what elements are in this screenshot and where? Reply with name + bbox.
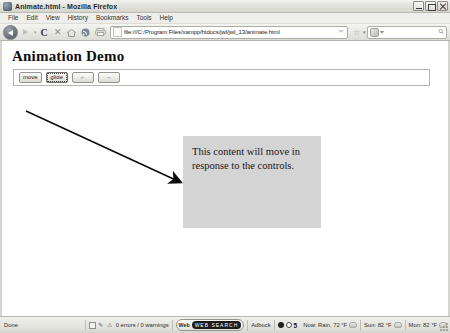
- search-bar[interactable]: ⚲: [367, 26, 447, 39]
- controls-panel: move glide ← →: [13, 69, 430, 86]
- glide-button[interactable]: glide: [46, 72, 68, 83]
- page-title: Animation Demo: [12, 48, 124, 65]
- browser-window: Animate.html - Mozilla Firefox File Edit…: [0, 0, 450, 333]
- menu-file[interactable]: File: [4, 13, 22, 23]
- menu-help[interactable]: Help: [156, 13, 177, 23]
- close-button[interactable]: [437, 1, 448, 11]
- back-icon[interactable]: [3, 25, 18, 40]
- adblock-status[interactable]: Adbock: [248, 318, 273, 333]
- search-engine-icon[interactable]: [370, 28, 379, 37]
- firefox-icon: [3, 2, 12, 11]
- left-arrow-button[interactable]: ←: [72, 72, 94, 83]
- web-pill[interactable]: Web WEB SEARCH: [176, 319, 245, 331]
- warning-icon[interactable]: ⚠: [107, 322, 114, 329]
- console-icon[interactable]: [89, 322, 96, 329]
- weather-sunday[interactable]: Sun: 82 °F: [361, 318, 404, 333]
- weather-sun-text: Sun: 82 °F: [364, 322, 391, 328]
- cloud-icon-sun: [394, 322, 402, 328]
- forward-icon: [19, 26, 32, 39]
- window-frame-left: [0, 41, 2, 316]
- maximize-button[interactable]: [425, 1, 436, 11]
- page-favicon: [113, 27, 122, 37]
- counter-value: 5: [294, 322, 298, 329]
- home-icon[interactable]: [66, 26, 77, 39]
- title-bar: Animate.html - Mozilla Firefox: [0, 0, 450, 13]
- right-arrow-button[interactable]: →: [98, 72, 120, 83]
- address-bar[interactable]: file:///C:/Program Files/xampp/htdocs/jw…: [110, 26, 348, 39]
- status-tools[interactable]: ✎ ⚠ 0 errors / 0 warnings: [86, 318, 172, 333]
- menu-bar: File Edit View History Bookmarks Tools H…: [0, 13, 450, 24]
- address-dropdown-icon[interactable]: [338, 30, 344, 33]
- status-bar: Done ✎ ⚠ 0 errors / 0 warnings Web WEB S…: [0, 316, 450, 333]
- status-text: Done: [0, 318, 85, 333]
- bookmark-star-icon[interactable]: ☆: [351, 26, 361, 39]
- notification-counter[interactable]: 5: [275, 318, 301, 333]
- menu-edit[interactable]: Edit: [22, 13, 41, 23]
- resize-grip[interactable]: [439, 322, 449, 332]
- cloud-icon-now: [349, 322, 357, 328]
- print-icon[interactable]: [94, 26, 107, 39]
- window-title: Animate.html - Mozilla Firefox: [15, 3, 117, 10]
- animated-content-box[interactable]: This content will move in response to th…: [183, 136, 321, 228]
- web-search-widget[interactable]: Web WEB SEARCH: [173, 318, 248, 333]
- search-engine-dropdown-icon[interactable]: [380, 31, 384, 34]
- animated-content-text: This content will move in response to th…: [183, 136, 321, 172]
- feed-icon[interactable]: [80, 26, 91, 39]
- search-icon[interactable]: ⚲: [437, 27, 446, 36]
- stop-icon[interactable]: ✕: [52, 26, 63, 39]
- menu-tools[interactable]: Tools: [132, 13, 155, 23]
- weather-mon-text: Mon: 82 °F: [409, 322, 437, 328]
- web-badge: WEB SEARCH: [192, 321, 242, 329]
- open-dot-icon: [286, 322, 292, 328]
- error-summary: 0 errors / 0 warnings: [116, 322, 169, 328]
- web-label: Web: [179, 322, 190, 328]
- filled-dot-icon: [278, 322, 284, 328]
- address-bar-value: file:///C:/Program Files/xampp/htdocs/jw…: [124, 29, 280, 35]
- reload-icon[interactable]: C: [38, 26, 50, 39]
- move-button[interactable]: move: [19, 72, 42, 83]
- menu-bookmarks[interactable]: Bookmarks: [92, 13, 133, 23]
- menu-view[interactable]: View: [42, 13, 64, 23]
- navigation-toolbar: ▾ C ✕ file:///C:/Program Files/xampp/htd…: [0, 24, 450, 41]
- annotation-arrow-icon: [20, 106, 195, 196]
- edit-icon[interactable]: ✎: [98, 322, 105, 329]
- page-viewport: Animation Demo move glide ← → This conte…: [0, 41, 450, 316]
- menu-history[interactable]: History: [64, 13, 92, 23]
- window-controls: [413, 1, 448, 11]
- weather-now-text: Now: Rain, 72 °F: [303, 322, 347, 328]
- minimize-button[interactable]: [413, 1, 424, 11]
- weather-now[interactable]: Now: Rain, 72 °F: [300, 318, 360, 333]
